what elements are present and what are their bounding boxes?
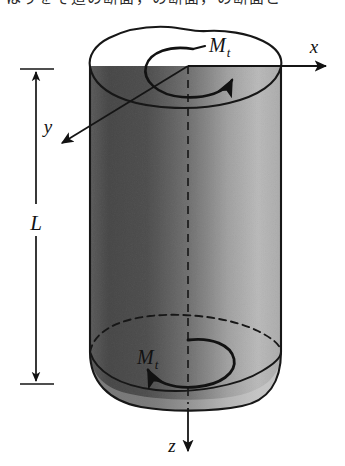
y-axis-label: y: [42, 116, 53, 137]
torque-top-label-subscript: t: [227, 45, 231, 60]
torque-bottom-label-subscript: t: [155, 357, 159, 372]
torsion-shaft-figure: はりをそ這の断面，の断面，の断面と: [0, 0, 345, 466]
length-label: L: [29, 211, 42, 235]
figure-canvas: x y z Mt Mt: [0, 0, 345, 466]
torque-top-label-main: M: [208, 34, 227, 56]
shaft-solid: [90, 27, 282, 411]
shaft-body-fill: [90, 66, 281, 411]
shaft-top-face-fill: [90, 27, 282, 66]
z-axis-label: z: [167, 435, 176, 456]
torque-bottom-label-main: M: [136, 346, 155, 368]
x-axis-label: x: [309, 36, 319, 57]
